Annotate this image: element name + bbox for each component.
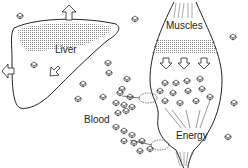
- glucose-cube: [80, 81, 86, 87]
- glucose-cube: [170, 90, 176, 96]
- glucose-cube: [193, 98, 199, 104]
- glucose-cube: [185, 88, 191, 94]
- glucose-cube: [121, 128, 127, 134]
- diagram-canvas: [0, 0, 248, 168]
- glucose-cube: [197, 76, 203, 82]
- glucose-cube: [184, 78, 190, 84]
- glucose-cube: [162, 98, 168, 104]
- glucose-cube: [177, 100, 183, 106]
- energy-arrows: [165, 100, 210, 128]
- muscle-arrow-down-2: [178, 58, 190, 69]
- glucose-cube: [115, 110, 121, 116]
- glucose-cube: [129, 132, 135, 138]
- glucose-cube: [75, 96, 81, 102]
- glucose-cube: [225, 134, 231, 140]
- glucose-cube: [157, 88, 163, 94]
- glucose-cube: [129, 104, 135, 110]
- glucose-cube: [207, 94, 213, 100]
- diagram: Liver Muscles Blood Energy: [0, 0, 248, 168]
- energy-label: Energy: [176, 131, 208, 141]
- glucose-cube: [132, 16, 138, 22]
- muscle-arrow-down-1: [160, 58, 172, 69]
- glucose-cube: [123, 108, 129, 114]
- liver-arrow-up: [62, 5, 76, 20]
- glucose-cube: [113, 100, 119, 106]
- glucose-cube: [124, 76, 130, 82]
- glucose-cube: [162, 80, 168, 86]
- glucose-cube: [230, 34, 236, 40]
- muscle-arrow-down-3: [198, 58, 210, 69]
- glucose-cube: [231, 100, 237, 106]
- glucose-cube: [137, 148, 143, 154]
- liver-label: Liver: [55, 45, 77, 55]
- glucose-cube: [113, 124, 119, 130]
- glucose-cube: [106, 70, 112, 76]
- glucose-cube: [17, 13, 23, 19]
- glucose-cube: [121, 138, 127, 144]
- muscle-shading: [152, 40, 218, 54]
- glucose-cube: [199, 86, 205, 92]
- glucose-cube: [121, 102, 127, 108]
- muscles-label: Muscles: [166, 21, 203, 31]
- muscle-fibers-top: [174, 3, 192, 18]
- glucose-cube: [100, 94, 106, 100]
- glucose-cube: [147, 146, 153, 152]
- glucose-cube: [173, 80, 179, 86]
- blood-label: Blood: [84, 115, 110, 125]
- glucose-cube: [105, 60, 111, 66]
